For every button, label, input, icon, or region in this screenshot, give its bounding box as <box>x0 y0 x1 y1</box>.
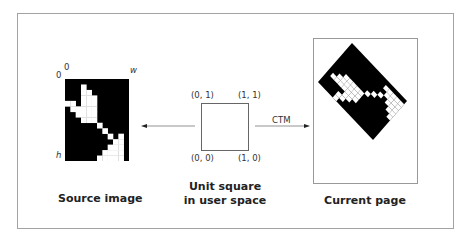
unit-square-caption-line1: Unit square <box>180 180 270 194</box>
x-origin-label: 0 <box>64 63 69 72</box>
y-origin-label: 0 <box>56 71 61 80</box>
corner-label-top-left: (0, 1) <box>191 91 214 100</box>
unit-square-caption-line2: in user space <box>180 194 270 208</box>
corner-label-bottom-right: (1, 0) <box>238 154 261 163</box>
height-label: h <box>56 151 61 160</box>
current-page-caption: Current page <box>320 194 410 208</box>
corner-label-bottom-left: (0, 0) <box>191 154 214 163</box>
corner-label-top-right: (1, 1) <box>238 91 261 100</box>
unit-square <box>202 104 249 151</box>
source-image <box>65 79 129 161</box>
source-image-caption: Source image <box>58 192 138 206</box>
arrow-to-source-icon <box>141 124 195 128</box>
width-label: w <box>130 66 137 75</box>
ctm-label: CTM <box>272 116 290 125</box>
